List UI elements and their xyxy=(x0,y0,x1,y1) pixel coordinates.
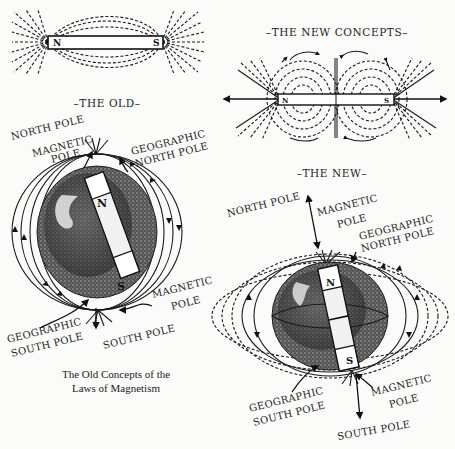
old-magnet-n-label: N xyxy=(97,197,107,210)
new-magnetic-pole-bottom-label-1: MAGNETIC xyxy=(370,372,433,398)
new-magnet-n-label: N xyxy=(326,277,335,288)
new-south-pole-label: SOUTH POLE xyxy=(336,418,411,442)
new-magnet-s-label: S xyxy=(346,355,353,366)
magnetism-diagram: N S –THE NEW CONCEPTS– xyxy=(0,0,455,449)
new-magnetic-pole-bottom-label-2: POLE xyxy=(388,392,420,410)
magnet-n-label: N xyxy=(282,96,289,105)
new-title: –THE NEW– xyxy=(297,167,368,179)
old-magnet-s-label: S xyxy=(117,280,125,293)
new-magnetic-pole-label-2: POLE xyxy=(336,212,368,230)
new-concepts-title: –THE NEW CONCEPTS– xyxy=(266,26,408,38)
new-concepts-field: N S xyxy=(224,51,446,141)
caption-line-1: The Old Concepts of the xyxy=(62,368,170,380)
magnet-s-label: S xyxy=(384,96,389,105)
old-magnetic-pole-bottom-label-1: MAGNETIC xyxy=(151,274,214,300)
new-magnetic-pole-label-1: MAGNETIC xyxy=(316,192,379,218)
bar-magnet xyxy=(48,36,163,49)
magnet-n-label: N xyxy=(53,38,61,48)
old-magnetic-pole-bottom-label-2: POLE xyxy=(170,294,202,312)
old-south-pole-label: SOUTH POLE xyxy=(102,322,176,351)
caption-line-2: Laws of Magnetism xyxy=(72,382,160,394)
new-north-pole-label: NORTH POLE xyxy=(226,190,301,219)
old-title: –THE OLD– xyxy=(73,97,140,109)
bar-magnet-field-top-left: N S xyxy=(12,10,204,74)
magnet-s-label: S xyxy=(153,38,160,48)
old-earth-globe: N S xyxy=(12,138,182,328)
